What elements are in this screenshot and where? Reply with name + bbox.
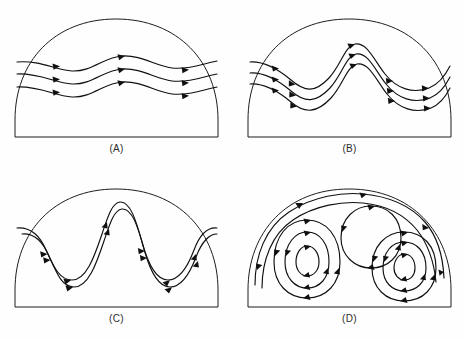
panel-label-a: (A) bbox=[0, 143, 233, 154]
figure-root: (A) bbox=[0, 0, 466, 340]
panel-b: (B) bbox=[233, 0, 466, 170]
panel-c: (C) bbox=[0, 170, 233, 340]
streamline-group-a bbox=[17, 56, 217, 97]
panel-grid: (A) bbox=[0, 0, 466, 340]
panel-label-c: (C) bbox=[0, 313, 233, 324]
panel-a: (A) bbox=[0, 0, 233, 170]
panel-label-b: (B) bbox=[233, 143, 466, 154]
vortex-cell-center-d bbox=[341, 206, 401, 268]
arrowheads-b bbox=[272, 43, 431, 111]
panel-label-d: (D) bbox=[233, 313, 466, 324]
open-streamlines-d bbox=[255, 194, 444, 288]
dome-boundary-b bbox=[248, 19, 451, 137]
dome-boundary-d bbox=[248, 189, 451, 307]
panel-d: (D) bbox=[233, 170, 466, 340]
arrowheads-a bbox=[53, 54, 190, 99]
